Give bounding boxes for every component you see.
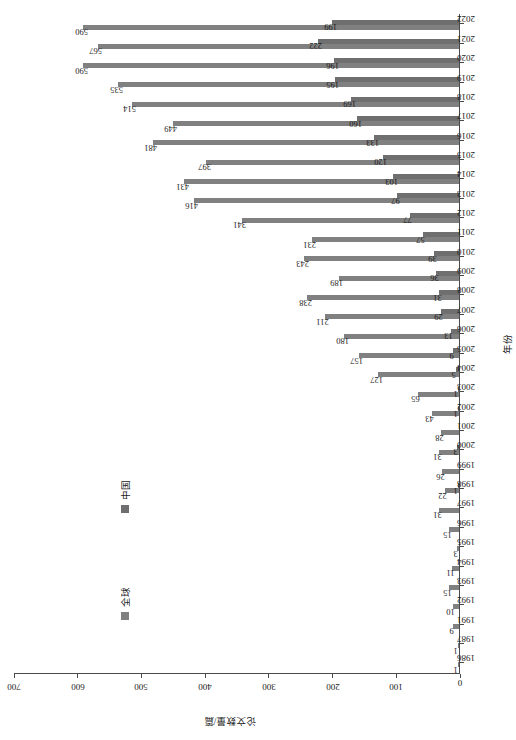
bar-group[interactable]: 1: [14, 653, 459, 672]
bar-global-2001[interactable]: 28: [441, 430, 459, 435]
legend-label: 全球: [118, 587, 132, 607]
bar-global-2006[interactable]: 180: [344, 334, 459, 339]
bar-china-2011[interactable]: 57: [423, 232, 459, 237]
bar-china-2015[interactable]: 120: [383, 155, 459, 160]
bar-group[interactable]: 514169: [14, 92, 459, 111]
bar-global-2018[interactable]: 514: [132, 102, 459, 107]
bar-value-label: 1: [453, 665, 457, 674]
bar-global-2004[interactable]: 127: [378, 372, 459, 377]
value-tick-label: 400: [198, 683, 212, 693]
category-tick-label: 2014: [457, 169, 475, 179]
bar-group[interactable]: 313: [14, 440, 459, 459]
category-tick-label: 2017: [457, 111, 475, 121]
bar-global-2013[interactable]: 416: [194, 198, 459, 203]
bar-global-2014[interactable]: 431: [184, 179, 459, 184]
bar-group[interactable]: 28: [14, 421, 459, 440]
bar-group[interactable]: 15: [14, 517, 459, 536]
bar-value-label: 36: [430, 273, 439, 282]
bar-group[interactable]: 24339: [14, 247, 459, 266]
bar-group[interactable]: 535195: [14, 73, 459, 92]
bar-global-2022[interactable]: 590: [83, 25, 459, 30]
bar-global-2016[interactable]: 481: [153, 140, 459, 145]
bar-group[interactable]: 481133: [14, 131, 459, 150]
bar-group[interactable]: 10: [14, 595, 459, 614]
category-tick: 2009: [460, 266, 516, 285]
bar-group[interactable]: 449160: [14, 111, 459, 130]
bar-value-label: 238: [299, 298, 312, 307]
bar-value-label: 15: [443, 588, 452, 597]
bar-china-2009[interactable]: 36: [436, 271, 459, 276]
bar-global-2005[interactable]: 157: [359, 353, 459, 358]
bar-global-2012[interactable]: 341: [242, 218, 459, 223]
bar-group[interactable]: 18936: [14, 266, 459, 285]
bar-group[interactable]: 11: [14, 556, 459, 575]
bar-group[interactable]: 34177: [14, 208, 459, 227]
bar-group[interactable]: 1275: [14, 363, 459, 382]
bar-global-1997[interactable]: 31: [439, 508, 459, 513]
bar-group[interactable]: 1: [14, 633, 459, 652]
bar-global-1995[interactable]: 3: [457, 546, 459, 551]
legend-item-全球[interactable]: 全球: [118, 587, 132, 620]
bar-group[interactable]: 431103: [14, 169, 459, 188]
bar-global-2011[interactable]: 231: [312, 237, 459, 242]
bar-china-2020[interactable]: 196: [334, 58, 459, 63]
bar-value-label: 211: [316, 317, 328, 326]
bar-china-2017[interactable]: 160: [357, 116, 459, 121]
category-tick-label: 1986: [457, 653, 475, 663]
bar-china-2014[interactable]: 103: [393, 174, 459, 179]
bar-value-label: 31: [433, 293, 442, 302]
bar-group[interactable]: 15: [14, 575, 459, 594]
bar-global-2020[interactable]: 590: [83, 63, 459, 68]
bar-value-label: 65: [411, 394, 420, 403]
category-tick-label: 1995: [457, 537, 475, 547]
category-axis-title: 年份: [500, 334, 514, 354]
bar-china-2013[interactable]: 97: [397, 193, 459, 198]
category-tick-label: 2021: [457, 34, 475, 44]
bar-group[interactable]: 9: [14, 614, 459, 633]
bar-group[interactable]: 1579: [14, 343, 459, 362]
value-tick-mark: [268, 674, 269, 678]
category-tick: 2000: [460, 441, 516, 460]
bar-group[interactable]: 23157: [14, 227, 459, 246]
bar-value-label: 231: [303, 240, 316, 249]
bar-group[interactable]: 567222: [14, 34, 459, 53]
bar-global-2019[interactable]: 535: [118, 83, 459, 88]
value-tick-label: 0: [458, 678, 463, 688]
bar-value-label: 397: [198, 162, 211, 171]
bar-group[interactable]: 221: [14, 479, 459, 498]
bar-value-label: 535: [110, 85, 123, 94]
legend-item-中国[interactable]: 中国: [118, 480, 132, 513]
category-tick-label: 2007: [457, 305, 475, 315]
bar-china-2016[interactable]: 133: [374, 135, 459, 140]
bar-group[interactable]: 397120: [14, 150, 459, 169]
value-axis-title: 论文数量/篇: [204, 715, 257, 729]
bar-group[interactable]: 431: [14, 401, 459, 420]
category-tick: 2021: [460, 34, 516, 53]
bar-global-1992[interactable]: 10: [453, 604, 459, 609]
bar-china-2021[interactable]: 222: [318, 39, 459, 44]
category-tick-label: 2011: [457, 227, 475, 237]
bar-china-2022[interactable]: 199: [332, 20, 459, 25]
bar-group[interactable]: 26: [14, 459, 459, 478]
bar-global-2017[interactable]: 449: [173, 121, 459, 126]
bar-global-2021[interactable]: 567: [98, 44, 459, 49]
bar-group[interactable]: 41697: [14, 189, 459, 208]
category-tick: 1997: [460, 499, 516, 518]
bar-group[interactable]: 18013: [14, 324, 459, 343]
bar-group[interactable]: 590196: [14, 54, 459, 73]
bar-group[interactable]: 651: [14, 382, 459, 401]
bar-group[interactable]: 590199: [14, 15, 459, 34]
bar-group[interactable]: 3: [14, 537, 459, 556]
category-tick-label: 1987: [457, 634, 475, 644]
bar-global-2009[interactable]: 189: [339, 276, 459, 281]
bar-group[interactable]: 31: [14, 498, 459, 517]
bar-china-2010[interactable]: 39: [434, 251, 459, 256]
category-tick-label: 2020: [457, 53, 475, 63]
bar-china-2018[interactable]: 169: [351, 97, 459, 102]
bar-group[interactable]: 21129: [14, 305, 459, 324]
bar-china-2012[interactable]: 77: [410, 213, 459, 218]
bar-china-2019[interactable]: 195: [335, 78, 459, 83]
bar-global-2015[interactable]: 397: [206, 160, 459, 165]
bar-group[interactable]: 23831: [14, 285, 459, 304]
bar-global-1986[interactable]: 1: [458, 662, 460, 667]
